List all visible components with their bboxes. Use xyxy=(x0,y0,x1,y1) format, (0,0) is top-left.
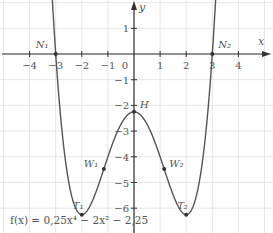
point-marker xyxy=(162,167,166,171)
y-tick-label: −1 xyxy=(114,75,129,86)
y-tick-label: −2 xyxy=(114,100,129,111)
x-axis-arrow-icon xyxy=(262,51,271,57)
x-tick-label: −4 xyxy=(22,60,37,71)
point-label: W₁ xyxy=(84,158,98,169)
x-tick-label: −1 xyxy=(101,60,116,71)
point-label: T₁ xyxy=(73,200,84,211)
point-marker xyxy=(102,167,106,171)
y-tick-label: −6 xyxy=(114,203,129,214)
y-tick-label: −4 xyxy=(114,152,129,163)
y-tick-label: 1 xyxy=(123,23,129,34)
point-label: T₂ xyxy=(177,200,188,211)
function-label: f(x) = 0,25x⁴ − 2x² − 2,25 xyxy=(10,214,148,226)
point-label: N₁ xyxy=(35,39,49,50)
point-marker xyxy=(54,52,58,56)
x-tick-label: 2 xyxy=(183,60,189,71)
point-label: N₂ xyxy=(217,39,231,50)
point-marker xyxy=(132,110,136,114)
point-marker xyxy=(210,52,214,56)
x-tick-label: 4 xyxy=(235,60,241,71)
point-label: H xyxy=(139,99,149,110)
x-tick-label: 0 xyxy=(122,60,128,71)
point-marker xyxy=(184,213,188,217)
x-axis-label: x xyxy=(258,35,265,48)
y-tick-label: −5 xyxy=(114,178,129,189)
function-graph: xy−4−3−2−1012341−1−2−3−4−5−6N₁N₂HT₁T₂W₁W… xyxy=(0,0,273,233)
y-axis-label: y xyxy=(138,1,146,14)
point-label: W₂ xyxy=(169,158,183,169)
x-tick-label: −2 xyxy=(74,60,89,71)
x-tick-label: 1 xyxy=(157,60,163,71)
